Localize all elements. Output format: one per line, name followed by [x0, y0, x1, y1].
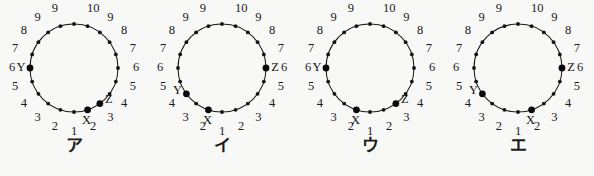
- ring-dot: [37, 92, 41, 96]
- point-label-z: Z: [401, 92, 409, 106]
- point-label-z: Z: [105, 92, 113, 106]
- ring-dot: [382, 108, 386, 112]
- tick-label: 5: [456, 79, 462, 93]
- tick-label: 7: [456, 41, 462, 55]
- tick-label: 9: [330, 10, 336, 24]
- diagram-u: 12233445566778899109XYZウ: [296, 0, 444, 176]
- marked-point-y: [479, 90, 486, 97]
- point-label-z: Z: [567, 60, 575, 74]
- ring-dot: [503, 108, 507, 112]
- tick-label: 4: [269, 96, 276, 110]
- tick-label: 2: [238, 119, 244, 133]
- tick-label: 5: [574, 79, 580, 93]
- diagram-e-option-label: エ: [444, 134, 592, 156]
- tick-label: 4: [21, 96, 28, 110]
- ring-dot: [72, 22, 76, 26]
- ring-dot: [355, 24, 359, 28]
- ring-dot: [256, 40, 260, 44]
- point-label-y: Y: [469, 83, 478, 97]
- marked-point-z: [559, 65, 566, 72]
- diagram-e-ring-graphic: 12233445566778899109XYZ: [444, 0, 592, 140]
- ring-dot: [220, 110, 224, 114]
- tick-label: 9: [348, 1, 354, 15]
- ring-dot: [176, 66, 180, 70]
- ring-dot: [368, 110, 372, 114]
- ring-dot: [262, 53, 266, 57]
- tick-label: 3: [182, 110, 188, 124]
- tick-label: 7: [130, 41, 136, 55]
- ring-dot: [185, 40, 189, 44]
- tick-label: 9: [551, 10, 557, 24]
- ring-dot: [333, 92, 337, 96]
- ring-dot: [262, 80, 266, 84]
- tick-label: 8: [121, 23, 127, 37]
- marked-point-z: [392, 100, 399, 107]
- ring-dot: [368, 22, 372, 26]
- diagram-u-ring-graphic: 12233445566778899109XYZ: [296, 0, 444, 140]
- tick-label: 5: [160, 79, 166, 93]
- ring-dot: [474, 53, 478, 57]
- diagram-i-option-label: イ: [148, 134, 296, 156]
- tick-label: 5: [308, 79, 314, 93]
- ring-dot: [542, 31, 546, 35]
- tick-label: 9: [34, 10, 40, 24]
- ring-dot: [178, 53, 182, 57]
- diagram-u-option-label: ウ: [296, 134, 444, 156]
- diagram-e: 12233445566778899109XYZエ: [444, 0, 592, 176]
- figure-sheet: 12233445566778899109XYZア1223344556677889…: [0, 0, 594, 176]
- tick-label: 8: [417, 23, 423, 37]
- tick-label: 7: [12, 41, 18, 55]
- tick-label: 6: [157, 60, 163, 74]
- point-label-x: X: [82, 113, 91, 127]
- ring-dot: [394, 31, 398, 35]
- tick-label: 10: [235, 1, 248, 15]
- tick-label: 4: [417, 96, 424, 110]
- ring-dot: [326, 53, 330, 57]
- tick-label: 6: [429, 60, 435, 74]
- tick-label: 5: [130, 79, 136, 93]
- tick-label: 9: [496, 1, 502, 15]
- ring-dot: [382, 24, 386, 28]
- ring-dot: [98, 31, 102, 35]
- ring-dot: [194, 102, 198, 106]
- tick-label: 9: [403, 10, 409, 24]
- ring-dot: [46, 102, 50, 106]
- tick-label: 3: [107, 110, 113, 124]
- tick-label: 2: [52, 119, 58, 133]
- ring-dot: [558, 80, 562, 84]
- ring-dot: [516, 110, 520, 114]
- ring-dot: [207, 24, 211, 28]
- marked-point-y: [183, 90, 190, 97]
- ring-dot: [530, 24, 534, 28]
- tick-label: 8: [565, 23, 571, 37]
- tick-label: 4: [465, 96, 472, 110]
- tick-label: 3: [255, 110, 261, 124]
- marked-point-y: [27, 65, 34, 72]
- tick-label: 4: [121, 96, 128, 110]
- tick-label: 10: [383, 1, 396, 15]
- tick-label: 5: [278, 79, 284, 93]
- ring-dot: [114, 53, 118, 57]
- ring-dot: [220, 22, 224, 26]
- tick-label: 9: [52, 1, 58, 15]
- tick-label: 2: [386, 119, 392, 133]
- point-label-y: Y: [173, 83, 182, 97]
- tick-label: 6: [281, 60, 287, 74]
- marked-point-z: [96, 100, 103, 107]
- tick-label: 4: [317, 96, 324, 110]
- tick-label: 7: [426, 41, 432, 55]
- tick-label: 6: [305, 60, 311, 74]
- tick-label: 4: [565, 96, 572, 110]
- point-label-z: Z: [271, 60, 279, 74]
- tick-label: 7: [278, 41, 284, 55]
- tick-label: 7: [160, 41, 166, 55]
- tick-label: 6: [577, 60, 583, 74]
- ring-dot: [59, 108, 63, 112]
- ring-dot: [246, 31, 250, 35]
- ring-dot: [490, 102, 494, 106]
- marked-point-z: [263, 65, 270, 72]
- tick-label: 6: [453, 60, 459, 74]
- tick-label: 9: [200, 1, 206, 15]
- ring-dot: [503, 24, 507, 28]
- point-label-y: Y: [16, 60, 25, 74]
